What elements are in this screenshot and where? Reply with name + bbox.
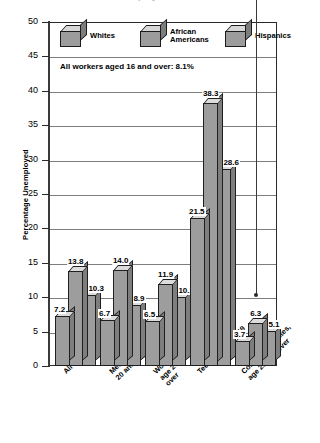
y-tick xyxy=(42,22,49,23)
y-tick xyxy=(42,366,49,367)
y-tick xyxy=(42,297,49,298)
bar: 21.5 xyxy=(190,218,205,366)
y-tick-label: 35 xyxy=(10,119,38,129)
y-tick xyxy=(42,91,49,92)
bars-layer: 7.213.810.36.714.08.96.511.910.121.538.3… xyxy=(49,22,277,366)
pointer-line xyxy=(256,0,257,296)
chart-title-cropped: Unemployment Rates xyxy=(0,0,320,14)
bar-value-label: 11.9 xyxy=(157,270,174,279)
y-tick-label: 30 xyxy=(10,154,38,164)
page-title: Unemployment Rates xyxy=(112,0,208,1)
x-axis-labels: AllMen, age 20 and overWomen, age 20 and… xyxy=(0,368,320,443)
bar-value-label: 8.9 xyxy=(132,294,145,303)
bar-value-label: 10.3 xyxy=(87,284,105,293)
y-tick xyxy=(42,194,49,195)
y-tick xyxy=(42,56,49,57)
bar: 6.7 xyxy=(100,320,115,366)
y-tick xyxy=(42,125,49,126)
y-tick xyxy=(42,332,49,333)
bar-value-label: 38.3 xyxy=(202,89,220,98)
y-tick xyxy=(42,263,49,264)
bar: 7.2 xyxy=(55,316,70,366)
bar: 3.7 xyxy=(235,341,250,366)
y-tick-label: 10 xyxy=(10,291,38,301)
y-tick-label: 5 xyxy=(10,326,38,336)
y-tick-label: 25 xyxy=(10,188,38,198)
bar-value-label: 6.7 xyxy=(98,309,111,318)
bar-value-label: 28.6 xyxy=(222,158,240,167)
y-tick xyxy=(42,160,49,161)
bar-value-label: 6.3 xyxy=(249,309,262,318)
y-tick-label: 20 xyxy=(10,222,38,232)
y-tick-label: 15 xyxy=(10,257,38,267)
unemployment-bar-chart: Unemployment Rates Percentage Unemployed… xyxy=(0,0,320,443)
bar-value-label: 5.1 xyxy=(267,320,280,329)
y-tick-label: 50 xyxy=(10,16,38,26)
pointer-dot xyxy=(254,293,258,297)
bar: 6.5 xyxy=(145,321,160,366)
bar-value-label: 14.0 xyxy=(112,256,130,265)
y-tick-label: 45 xyxy=(10,50,38,60)
bar-value-label: 7.2 xyxy=(53,305,66,314)
bar-value-label: 21.5 xyxy=(188,207,206,216)
y-tick xyxy=(42,228,49,229)
y-tick-label: 40 xyxy=(10,85,38,95)
bar-value-label: 6.5 xyxy=(143,310,156,319)
bar-value-label: 13.8 xyxy=(67,257,85,266)
bar-value-label: 3.7 xyxy=(233,330,246,339)
